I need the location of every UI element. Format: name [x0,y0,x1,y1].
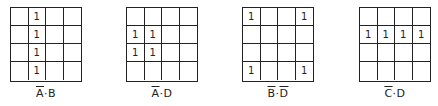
kmap-cell [180,44,198,62]
kmap-cell: 1 [29,26,47,44]
kmap-cell [180,8,198,26]
label-term: C [384,87,392,100]
kmap-cell [162,44,180,62]
kmap-grid: 1111 [126,7,198,82]
kmap-cell [11,8,29,26]
kmap-cell: 1 [378,26,396,44]
kmap-label: C·D [359,87,431,100]
label-term: A [36,87,44,100]
kmap-cell [162,26,180,44]
kmap-cell [360,44,378,62]
kmap-cell [378,8,396,26]
kmap-cell [360,8,378,26]
label-term: B [48,87,56,100]
kmap-cell [162,8,180,26]
kmap-a-bar-d: 1111 A·D [126,7,198,82]
kmap-cell: 1 [145,44,163,62]
label-term: D [280,87,289,100]
kmap-cell [378,44,396,62]
kmap-cell: 1 [29,44,47,62]
kmap-cell: 1 [395,26,413,44]
kmap-cell: 1 [29,62,47,80]
kmap-grid: 1111 [10,7,82,82]
kmap-cell: 1 [243,62,261,80]
kmap-cell: 1 [296,62,314,80]
kmap-cell [261,44,279,62]
kmap-cell: 1 [243,8,261,26]
label-term: A [151,87,159,100]
label-term: B [267,87,275,100]
kmap-cell: 1 [296,8,314,26]
kmap-cell [413,62,431,80]
kmap-cell [46,8,64,26]
kmap-cell [261,62,279,80]
kmap-cell [296,44,314,62]
kmap-cell [278,44,296,62]
kmap-a-bar-b: 1111 A·B [10,7,82,82]
kmap-cell [145,8,163,26]
kmap-cell [395,62,413,80]
kmap-cell [11,62,29,80]
kmap-cell [180,62,198,80]
label-term: D [164,87,173,100]
kmap-cell [162,62,180,80]
kmap-cell [296,26,314,44]
kmap-cell [64,26,82,44]
kmap-cell [64,62,82,80]
kmap-cell [278,8,296,26]
kmap-grid: 1111 [359,7,431,82]
kmap-grid: 1111 [242,7,314,82]
kmap-cell [11,26,29,44]
kmap-cell [46,62,64,80]
kmap-cell [11,44,29,62]
kmap-cell [261,8,279,26]
kmap-cell [395,44,413,62]
kmap-cell: 1 [127,44,145,62]
kmap-c-bar-d: 1111 C·D [359,7,431,82]
kmap-label: A·D [126,87,198,100]
kmap-label: B·D [242,87,314,100]
kmap-cell [278,26,296,44]
kmap-cell [46,26,64,44]
kmap-cell [261,26,279,44]
kmap-cell [64,8,82,26]
kmap-cell [243,26,261,44]
kmap-cell [64,44,82,62]
kmap-cell [378,62,396,80]
kmap-cell [243,44,261,62]
kmap-cell [127,8,145,26]
kmap-cell [127,62,145,80]
kmap-cell: 1 [360,26,378,44]
kmap-cell: 1 [127,26,145,44]
kmap-label: A·B [10,87,82,100]
kmap-cell [278,62,296,80]
kmap-b-bar-d-bar: 1111 B·D [242,7,314,82]
kmap-cell [395,8,413,26]
kmap-cell: 1 [413,26,431,44]
label-term: D [397,87,406,100]
kmap-cell [360,62,378,80]
kmap-cell [180,26,198,44]
kmap-cell [413,8,431,26]
kmap-cell [413,44,431,62]
kmap-cell: 1 [29,8,47,26]
kmap-cell [46,44,64,62]
kmap-cell: 1 [145,26,163,44]
kmap-cell [145,62,163,80]
